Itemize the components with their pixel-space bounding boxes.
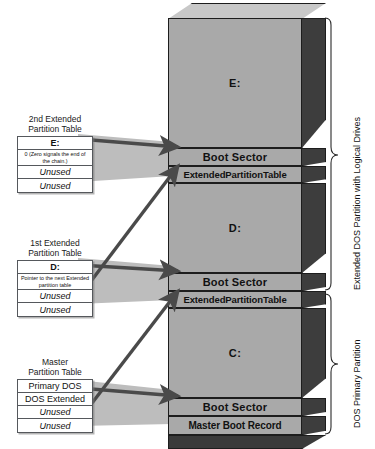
- table-body: Primary DOS DOS Extended Unused Unused: [17, 379, 93, 433]
- partition-table-second-extended: 2nd Extended Partition Table E: 0 (Zero …: [17, 114, 93, 193]
- slab-label: Boot Sector: [168, 273, 302, 291]
- arrow-ept2-to-boot-sector-e: [79, 139, 178, 147]
- slab-side-face: [302, 308, 326, 398]
- table-row: Pointer to the next Extended partition t…: [18, 274, 92, 290]
- table-row: E:: [18, 137, 92, 150]
- table-row: DOS Extended: [18, 393, 92, 406]
- slab-side-face: [302, 291, 326, 308]
- table-caption: Master Partition Table: [17, 357, 93, 377]
- slab-boot-sector-e: Boot Sector: [168, 148, 302, 166]
- table-row: Unused: [18, 406, 92, 419]
- slab-label: D:: [168, 183, 302, 273]
- arrow-ept1-to-boot-sector-d: [79, 265, 178, 271]
- partition-table-first-extended: 1st Extended Partition Table D: Pointer …: [17, 238, 93, 317]
- table-row: D:: [18, 261, 92, 274]
- table-row: Unused: [18, 303, 92, 316]
- table-row: 0 (Zero signals the end of the chain.): [18, 150, 92, 166]
- slab-label: Master Boot Record: [168, 416, 302, 435]
- table-row: Unused: [18, 290, 92, 303]
- table-row: Unused: [18, 419, 92, 432]
- brace-label-dos-primary: DOS Primary Partition: [352, 339, 362, 428]
- slab-side-face: [302, 18, 326, 148]
- slab-ext-part-table-1: ExtendedPartitionTable: [168, 291, 302, 308]
- disk-bottom-face: [168, 435, 326, 449]
- table-row: Unused: [18, 166, 92, 179]
- slab-side-face: [302, 398, 326, 416]
- arrow-master-to-ext-part-table-1: [79, 291, 178, 420]
- slab-label: E:: [168, 18, 302, 148]
- slab-boot-sector-c: Boot Sector: [168, 398, 302, 416]
- slab-label: Boot Sector: [168, 148, 302, 166]
- slab-side-face: [302, 273, 326, 291]
- slab-boot-sector-d: Boot Sector: [168, 273, 302, 291]
- slab-label: Boot Sector: [168, 398, 302, 416]
- slab-side-face: [302, 148, 326, 166]
- disk-stack: E: Boot Sector ExtendedPartitionTable D:…: [168, 18, 318, 438]
- table-body: E: 0 (Zero signals the end of the chain.…: [17, 136, 93, 193]
- table-row: Unused: [18, 179, 92, 192]
- arrow-master-to-boot-sector-c: [79, 388, 178, 396]
- disk-top-face: [168, 3, 326, 19]
- slab-side-face: [302, 183, 326, 273]
- slab-ext-part-table-2: ExtendedPartitionTable: [168, 166, 302, 183]
- table-row: Primary DOS: [18, 380, 92, 393]
- slab-label: ExtendedPartitionTable: [168, 291, 302, 308]
- slab-label: ExtendedPartitionTable: [168, 166, 302, 183]
- slab-label: C:: [168, 308, 302, 398]
- table-caption: 1st Extended Partition Table: [17, 238, 93, 258]
- slab-drive-d: D:: [168, 183, 302, 273]
- slab-drive-c: C:: [168, 308, 302, 398]
- arrow-ept1-to-ext-part-table-2: [79, 166, 178, 297]
- slab-master-boot-record: Master Boot Record: [168, 416, 302, 435]
- brace-dos-primary: [325, 294, 338, 434]
- brace-label-extended-dos: Extended DOS Partition with Logical Driv…: [352, 117, 362, 290]
- slab-side-face: [302, 416, 326, 435]
- slab-drive-e: E:: [168, 18, 302, 148]
- brace-extended-dos: [325, 18, 338, 290]
- partition-table-master: Master Partition Table Primary DOS DOS E…: [17, 357, 93, 433]
- table-caption: 2nd Extended Partition Table: [17, 114, 93, 134]
- table-body: D: Pointer to the next Extended partitio…: [17, 260, 93, 317]
- slab-side-face: [302, 166, 326, 183]
